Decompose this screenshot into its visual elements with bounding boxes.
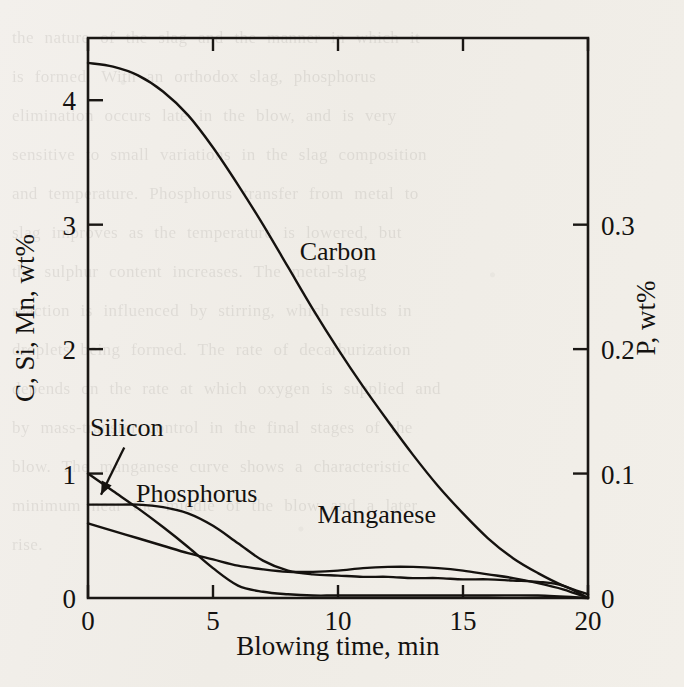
chart-canvas: 05101520 01234 00.10.20.3 CarbonSiliconP… [0,0,684,687]
y-axis-right-label: P, wt% [631,280,661,355]
y2-tick-label: 0.3 [601,211,635,241]
y-tick-label: 4 [63,86,77,116]
x-axis-label: Blowing time, min [236,631,440,661]
silicon-leader-arrow [101,447,124,494]
series-labels: CarbonSiliconPhosphorusManganese [90,237,436,530]
x-tick-label: 5 [206,606,220,636]
series-label-silicon: Silicon [90,413,164,442]
series-label-carbon: Carbon [300,237,377,266]
y2-tick-label: 0.2 [601,335,635,365]
y-axis-left-label: C, Si, Mn, wt% [10,234,40,402]
y2-tick-label: 0.1 [601,460,635,490]
x-tick-label: 15 [450,606,477,636]
x-axis-ticks: 05101520 [81,38,601,636]
y2-tick-label: 0 [601,584,615,614]
y-tick-label: 3 [63,211,77,241]
y-tick-label: 0 [63,584,77,614]
y-axis-left-ticks: 01234 [63,86,104,614]
y-axis-right-ticks: 00.10.20.3 [573,211,635,614]
x-tick-label: 0 [81,606,95,636]
y-tick-label: 1 [63,460,77,490]
series-label-phosphorus: Phosphorus [136,479,257,508]
series-label-manganese: Manganese [318,500,436,529]
y-tick-label: 2 [63,335,77,365]
x-tick-label: 20 [575,606,602,636]
